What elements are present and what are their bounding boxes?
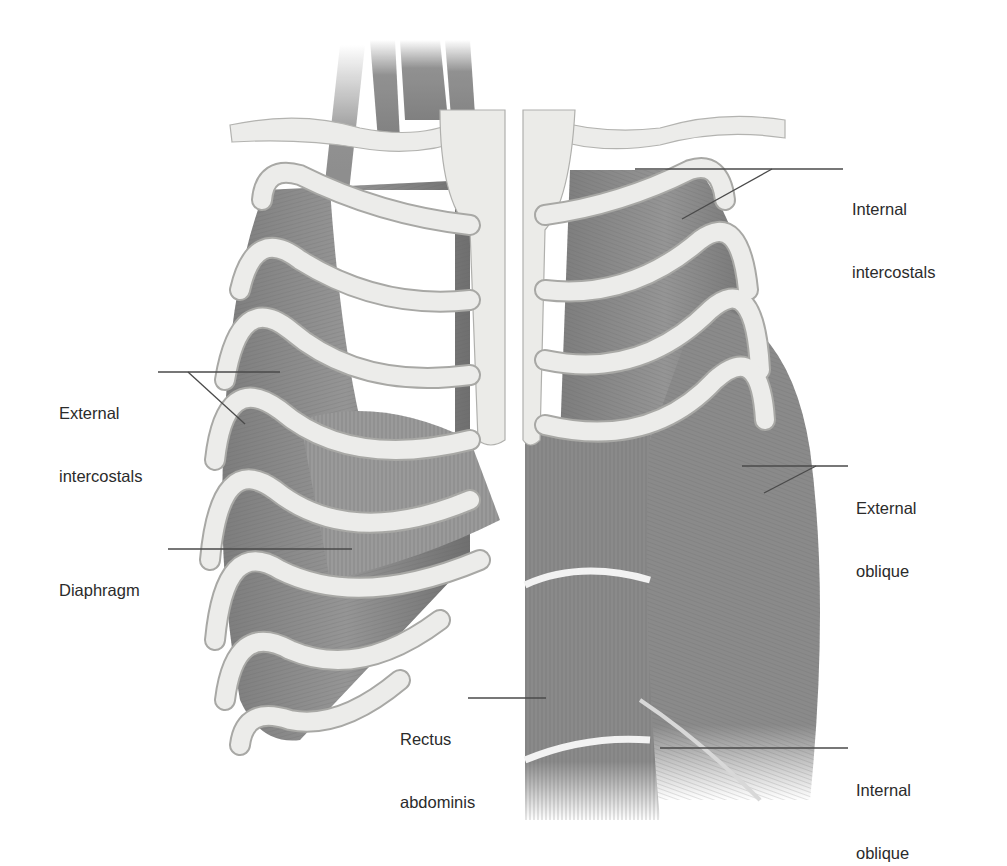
center-gap xyxy=(505,0,523,852)
label-rectus-abdominis: Rectus abdominis xyxy=(400,687,475,855)
label-internal-intercostals: Internal intercostals xyxy=(852,157,935,325)
label-external-intercostals: External intercostals xyxy=(59,361,142,529)
label-external-oblique: External oblique xyxy=(856,456,917,624)
label-internal-oblique: Internal oblique xyxy=(856,738,911,866)
label-diaphragm: Diaphragm xyxy=(59,538,140,643)
